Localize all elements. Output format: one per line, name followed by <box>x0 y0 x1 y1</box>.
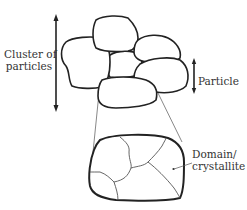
particle-size-arrow <box>192 58 196 94</box>
magnified-particle <box>89 135 184 201</box>
particle-top <box>93 16 138 52</box>
particle-cluster <box>62 16 189 108</box>
cluster-label: Cluster of particles <box>4 48 54 72</box>
domain-label-line2: crystallite <box>192 160 245 172</box>
cluster-size-arrow <box>54 14 59 112</box>
particle-bottom <box>98 77 157 108</box>
domain-label: Domain/ crystallite <box>192 148 245 172</box>
particle-label: Particle <box>198 75 239 87</box>
diagram-canvas <box>0 0 247 210</box>
cluster-label-line2: particles <box>4 60 54 72</box>
cluster-label-line1: Cluster of <box>4 48 54 60</box>
domain-label-line1: Domain/ <box>192 148 245 160</box>
